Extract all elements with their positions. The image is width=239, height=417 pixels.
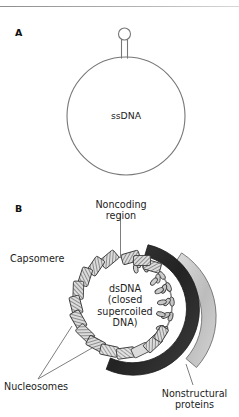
noncoding-region-label: Noncoding region (74, 199, 168, 222)
nucleosomes-leader-line-2 (38, 348, 92, 379)
dsdna-line-2: (closed (84, 294, 166, 305)
capsomere-label: Capsomere (10, 253, 64, 264)
figure-container: A ssDNA B Noncoding region Capsomere dsD… (0, 0, 239, 417)
nonstructural-line-2: proteins (150, 399, 239, 410)
nucleosome (133, 255, 150, 265)
nucleosomes-label: Nucleosomes (4, 381, 68, 392)
ssdna-center-label: ssDNA (91, 110, 161, 121)
noncoding-line-1: Noncoding (74, 199, 168, 210)
ssdna-hairpin-loop (119, 28, 131, 40)
nonstructural-line-1: Nonstructural (150, 388, 239, 399)
nucleosomes-leader-line-1 (38, 326, 72, 379)
panel-b-letter: B (15, 203, 22, 214)
nonstructural-proteins-label: Nonstructural proteins (150, 388, 239, 411)
noncoding-line-2: region (74, 210, 168, 221)
dsdna-center-label: dsDNA (closed supercoiled DNA) (84, 283, 166, 329)
panel-a-ssdna-genome (67, 28, 185, 175)
nonstructural-proteins-leader-line (186, 364, 193, 385)
dsdna-line-1: dsDNA (84, 283, 166, 294)
panel-a-letter: A (15, 27, 22, 38)
dsdna-line-4: DNA) (84, 317, 166, 328)
dsdna-line-3: supercoiled (84, 306, 166, 317)
